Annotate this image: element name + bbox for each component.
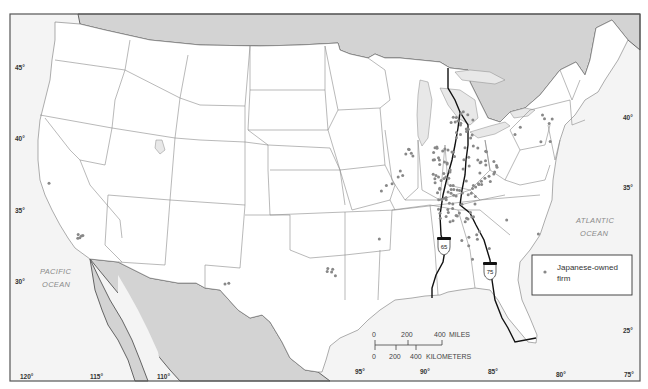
lat-label-35: 35° [15, 207, 25, 214]
legend-label-line1: Japanese-owned [557, 263, 618, 272]
firm-dot [453, 155, 456, 158]
lon-label-90: 90° [420, 368, 430, 375]
firm-dot [464, 220, 467, 223]
firm-dot [480, 183, 483, 186]
firm-dot [437, 175, 440, 178]
firm-dot [227, 282, 230, 285]
firm-dot [472, 215, 475, 218]
firm-dot [474, 203, 477, 206]
firm-dot [466, 127, 469, 130]
firm-dot [537, 233, 540, 236]
firm-dot [450, 188, 453, 191]
firm-dot [492, 172, 495, 175]
firm-dot [451, 150, 454, 153]
lon-label-75: 75° [624, 371, 634, 378]
atlantic-ocean-label-1: ATLANTIC [575, 216, 614, 225]
firm-dot [465, 130, 468, 133]
lat-label-45: 45° [15, 64, 25, 71]
firm-dot [378, 238, 381, 241]
firm-dot [408, 148, 411, 151]
firm-dot [447, 149, 450, 152]
firm-dot [451, 202, 454, 205]
legend-label-line2: firm [557, 274, 571, 283]
firm-dot [437, 208, 440, 211]
firm-dot [489, 180, 492, 183]
firm-dot [433, 177, 436, 180]
firm-dot [451, 207, 454, 210]
scale-km-0: 0 [372, 353, 376, 360]
firm-dot [452, 188, 455, 191]
firm-dot [461, 191, 464, 194]
firm-dot [456, 120, 459, 123]
firm-dot [48, 182, 51, 185]
lon-label-95: 95° [355, 368, 365, 375]
pacific-ocean-label-2: OCEAN [42, 280, 70, 289]
firm-dot [439, 212, 442, 215]
firm-dot [435, 146, 438, 149]
firm-dot [476, 147, 479, 150]
lon-label-85: 85° [488, 368, 498, 375]
firm-dot [439, 217, 442, 220]
firm-dot [464, 146, 467, 149]
firm-dot [470, 192, 473, 195]
firm-dot [450, 192, 453, 195]
scale-miles-200: 200 [401, 331, 413, 338]
firm-dot [438, 163, 441, 166]
firm-dot [488, 247, 491, 250]
lat-label-right-40: 40° [623, 114, 633, 121]
firm-dot [455, 131, 458, 134]
firm-dot [438, 188, 441, 191]
firm-dot [391, 182, 394, 185]
firm-dot [224, 282, 227, 285]
firm-dot [541, 114, 544, 117]
scale-miles-0: 0 [372, 331, 376, 338]
firm-dot [467, 193, 470, 196]
firm-dot [471, 187, 474, 190]
firm-dot [404, 153, 407, 156]
firm-dot [454, 121, 457, 124]
firm-dot [548, 122, 551, 125]
firm-dot [81, 234, 84, 237]
firm-dot [436, 191, 439, 194]
firm-dot [449, 169, 452, 172]
firm-dot [468, 165, 471, 168]
scale-miles-unit: MILES [449, 331, 470, 338]
scale-miles-400: 400 [434, 331, 446, 338]
firm-dot [539, 140, 542, 143]
firm-dot [479, 161, 482, 164]
firm-dot [484, 164, 487, 167]
pacific-ocean-label-1: PACIFIC [40, 267, 71, 276]
firm-dot [334, 274, 337, 277]
firm-dot [449, 184, 452, 187]
lat-label-30: 30° [15, 278, 25, 285]
firm-dot [77, 233, 80, 236]
scale-km-400: 400 [410, 353, 422, 360]
firm-dot [401, 174, 404, 177]
firm-dot [476, 159, 479, 162]
firm-dot [452, 184, 455, 187]
firm-dot [448, 202, 451, 205]
firm-dot [440, 179, 443, 182]
firm-dot [469, 211, 472, 214]
firm-dot [326, 270, 329, 273]
firm-dot [471, 119, 474, 122]
firm-dot [432, 173, 435, 176]
firm-dot [326, 267, 329, 270]
firm-dot [385, 184, 388, 187]
firm-dot [488, 175, 491, 178]
firm-dot [471, 134, 474, 137]
firm-dot [551, 118, 554, 121]
firm-dot [446, 208, 449, 211]
firm-dot [505, 219, 508, 222]
firm-dot [455, 214, 458, 217]
firm-dot [445, 215, 448, 218]
firm-dot [495, 164, 498, 167]
firm-dot [543, 117, 546, 120]
scale-km-unit: KILOMETERS [426, 353, 471, 360]
firm-dot [437, 198, 440, 201]
firm-dot [480, 180, 483, 183]
firm-dot [442, 172, 445, 175]
firm-dot [380, 190, 383, 193]
us-map: 65 75 45° 40° 35° 30° 40° 35° 25° 120° 1… [0, 0, 648, 389]
legend-dot-icon [543, 270, 546, 273]
